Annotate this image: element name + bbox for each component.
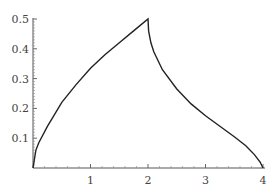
y-tick-label: 0.4 [12,43,30,56]
data-curve [33,19,263,168]
x-tick-label: 4 [260,174,267,187]
plot-area [33,19,263,168]
x-tick-label: 1 [87,174,94,187]
line-chart: 0.10.20.30.40.5 1234 [0,0,280,189]
x-tick-label: 2 [145,174,152,187]
y-axis: 0.10.20.30.40.5 [12,13,38,168]
y-tick-label: 0.3 [12,73,30,86]
y-tick-label: 0.5 [12,13,30,26]
x-axis: 1234 [33,164,267,187]
y-tick-label: 0.2 [12,102,30,115]
y-tick-label: 0.1 [12,132,30,145]
x-tick-label: 3 [202,174,209,187]
